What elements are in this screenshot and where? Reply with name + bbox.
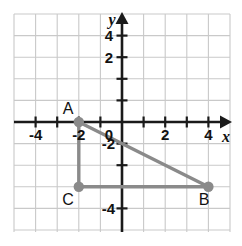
coordinate-plane-svg: -4 -2 2 4 4 2 -2 -4 0 x y A B C: [0, 0, 242, 246]
vertex-label-b: B: [199, 191, 210, 208]
coordinate-plane-figure: -4 -2 2 4 4 2 -2 -4 0 x y A B C: [0, 0, 242, 246]
x-axis-label: x: [221, 128, 230, 145]
y-tick-label-neg4: -4: [102, 200, 116, 217]
x-tick-label-2: 2: [161, 126, 169, 143]
vertex-label-a: A: [63, 100, 74, 117]
x-tick-label-neg4: -4: [29, 126, 43, 143]
y-axis-label: y: [106, 11, 116, 29]
x-tick-label-4: 4: [204, 126, 213, 143]
origin-label: 0: [105, 126, 113, 143]
vertex-label-c: C: [62, 191, 74, 208]
y-tick-label-2: 2: [105, 49, 113, 66]
y-tick-label-4: 4: [105, 27, 114, 44]
vertex-point-c: [74, 182, 84, 192]
x-tick-label-neg2: -2: [72, 126, 85, 143]
